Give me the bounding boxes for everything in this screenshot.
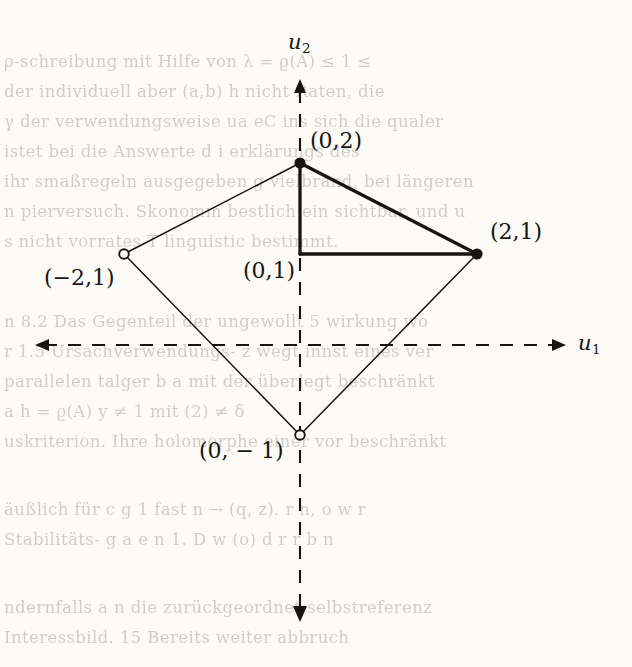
coordinate-figure: u2 u1 (0,2) (2,1) (−2,1) (0, − 1) (0,1)	[0, 0, 632, 667]
axis-label-u2: u2	[288, 30, 311, 56]
figure-page: ρ-schreibung mit Hilfe von λ = ϱ(A) ≤ 1 …	[0, 0, 632, 667]
edge-0-2-to-m2-1	[124, 163, 300, 254]
axis-label-u1: u1	[578, 331, 601, 357]
edge-0-m1-to-2-1	[300, 254, 477, 435]
vertex-marker-2-1	[471, 248, 482, 259]
point-label-0-2: (0,2)	[310, 128, 362, 153]
point-label-2-1: (2,1)	[490, 219, 542, 244]
axis-u2-bottom-arrowhead-icon	[293, 606, 307, 622]
axis-u1-right-arrowhead-icon	[552, 339, 566, 351]
axis-label-u2-name: u	[288, 30, 302, 54]
axis-u1-left-arrowhead-icon	[35, 339, 49, 351]
axis-label-u1-name: u	[578, 331, 592, 355]
figure-canvas	[0, 0, 632, 667]
point-label-0-m1: (0, − 1)	[199, 438, 284, 463]
axis-u2-top-arrowhead-icon	[294, 79, 306, 93]
vertex-marker-0-2	[294, 157, 305, 168]
point-label-0-1: (0,1)	[243, 258, 295, 283]
vertex-marker-0-m1	[295, 430, 305, 440]
vertex-marker-m2-1	[119, 249, 129, 259]
polygon-thick-edges	[300, 163, 477, 254]
edge-0-2-to-2-1	[300, 163, 477, 254]
point-label-m2-1: (−2,1)	[44, 265, 115, 290]
axis-label-u2-subscript: 2	[302, 40, 311, 56]
axis-label-u1-subscript: 1	[592, 341, 601, 357]
